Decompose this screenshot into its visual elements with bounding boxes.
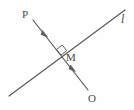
line-label-l: l [121,13,124,25]
direction-tick-lower-icon [69,65,76,72]
point-label-o: O [88,93,96,104]
point-label-p: P [22,9,28,20]
point-label-m: M [66,52,76,63]
geometry-figure: P M O l [0,0,134,110]
direction-tick-upper-icon [41,31,48,38]
